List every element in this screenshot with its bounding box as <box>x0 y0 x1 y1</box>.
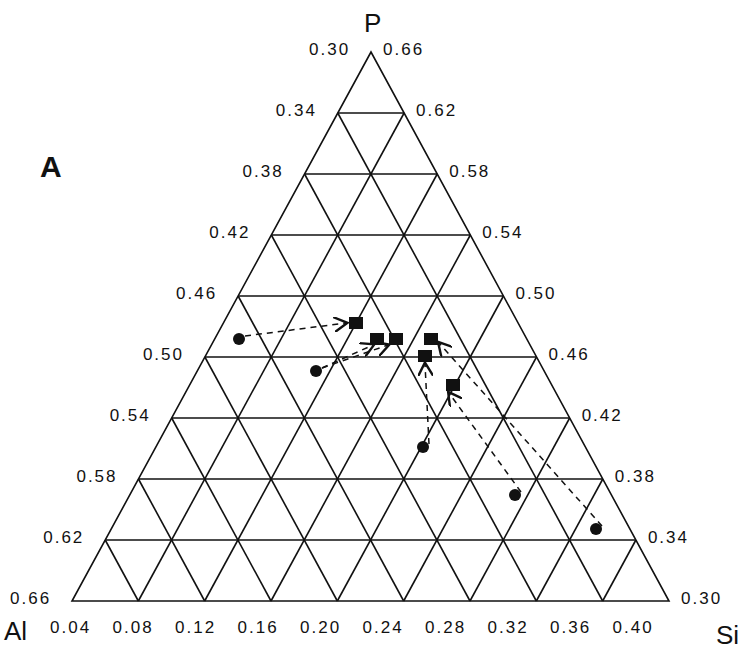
right-tick: 0.58 <box>449 162 490 182</box>
right-tick: 0.62 <box>416 101 457 121</box>
left-tick: 0.50 <box>143 345 184 365</box>
left-tick: 0.46 <box>176 284 217 304</box>
right-tick: 0.38 <box>615 467 656 487</box>
left-tick: 0.66 <box>10 589 51 609</box>
data-point-square <box>424 333 438 345</box>
right-tick: 0.66 <box>383 40 424 60</box>
data-point-square <box>418 350 432 362</box>
apex-label-al: Al <box>4 616 27 647</box>
bottom-tick: 0.36 <box>550 618 591 638</box>
left-tick: 0.62 <box>43 528 84 548</box>
bottom-tick: 0.12 <box>175 618 216 638</box>
bottom-tick: 0.40 <box>613 618 654 638</box>
trajectory-arrow <box>449 393 521 492</box>
bottom-tick: 0.04 <box>50 618 91 638</box>
left-tick: 0.38 <box>243 162 284 182</box>
panel-label: A <box>40 150 62 184</box>
data-point-circle <box>509 489 521 501</box>
bottom-tick: 0.24 <box>363 618 404 638</box>
right-tick: 0.34 <box>648 528 689 548</box>
left-tick: 0.54 <box>110 406 151 426</box>
bottom-tick: 0.32 <box>488 618 529 638</box>
right-tick: 0.42 <box>582 406 623 426</box>
triangle-outline <box>72 52 669 601</box>
trajectory-arrow <box>245 323 346 336</box>
apex-label-si: Si <box>716 620 739 651</box>
data-point-square <box>389 333 403 345</box>
bottom-tick: 0.16 <box>238 618 279 638</box>
data-point-circle <box>417 441 429 453</box>
bottom-tick: 0.20 <box>300 618 341 638</box>
left-tick: 0.42 <box>209 223 250 243</box>
apex-label-p: P <box>364 8 381 39</box>
data-point-circle <box>590 523 602 535</box>
right-tick: 0.50 <box>515 284 556 304</box>
right-tick: 0.30 <box>681 589 722 609</box>
data-point-square <box>446 379 460 391</box>
data-point-square <box>370 333 384 345</box>
left-tick: 0.34 <box>276 101 317 121</box>
ternary-plot <box>0 0 753 667</box>
data-point-square <box>349 317 363 329</box>
data-point-circle <box>310 365 322 377</box>
right-tick: 0.46 <box>549 345 590 365</box>
bottom-tick: 0.28 <box>425 618 466 638</box>
data-point-circle <box>233 333 245 345</box>
left-tick: 0.30 <box>309 40 350 60</box>
right-tick: 0.54 <box>482 223 523 243</box>
left-tick: 0.58 <box>76 467 117 487</box>
trajectory-arrow <box>425 364 429 444</box>
bottom-tick: 0.08 <box>113 618 154 638</box>
